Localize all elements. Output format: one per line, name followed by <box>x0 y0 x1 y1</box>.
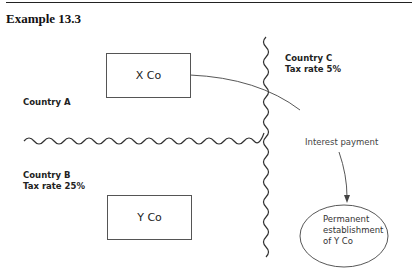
pe-label: Permanent establishment of Y Co <box>323 214 383 247</box>
y-co-label: Y Co <box>137 211 162 224</box>
y-co-box: Y Co <box>107 195 192 240</box>
country-b-tax: Tax rate 25% <box>23 181 85 192</box>
pe-line-1: Permanent <box>323 214 383 225</box>
border-vertical-c <box>264 37 269 257</box>
interest-payment-label: Interest payment <box>305 137 378 148</box>
interest-arrow-lower <box>339 152 347 197</box>
country-b-label: Country B <box>23 170 70 181</box>
pe-line-2: establishment <box>323 225 383 236</box>
country-a-label: Country A <box>23 97 71 108</box>
x-co-label: X Co <box>136 69 161 82</box>
country-c-label: Country C <box>285 53 332 64</box>
country-c-tax: Tax rate 5% <box>285 64 341 75</box>
pe-line-3: of Y Co <box>323 236 383 247</box>
x-co-box: X Co <box>106 53 191 98</box>
border-horizontal-ab <box>24 133 264 144</box>
interest-arrow <box>190 75 300 110</box>
arrowhead-icon <box>344 195 350 203</box>
